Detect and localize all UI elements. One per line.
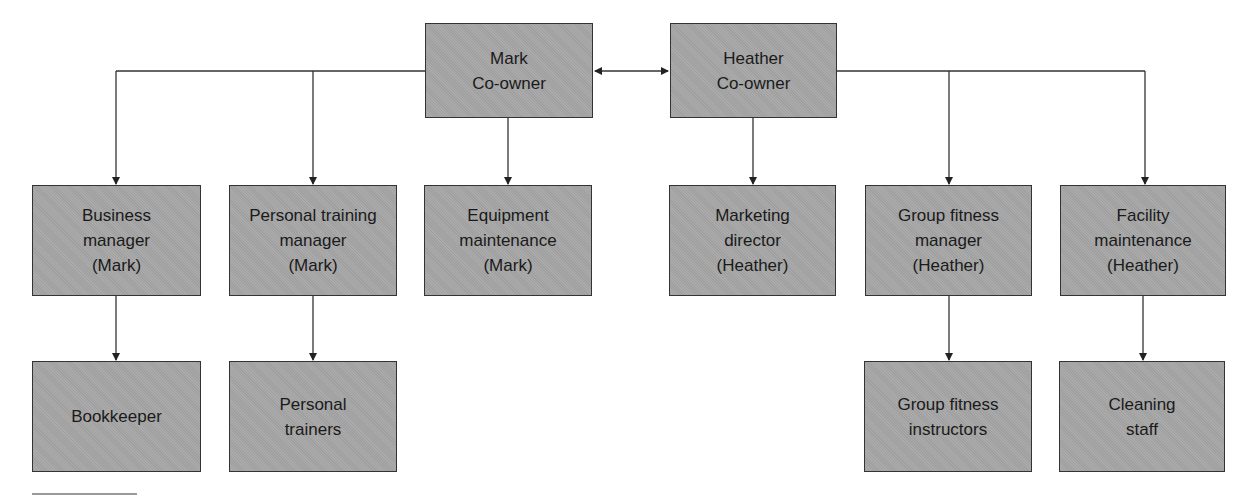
node-label: Cleaning staff	[1108, 392, 1175, 442]
node-label: Group fitness manager (Heather)	[898, 203, 999, 278]
node-personal-trainers: Personal trainers	[229, 361, 397, 472]
node-bookkeeper: Bookkeeper	[32, 361, 201, 472]
node-label: Personal training manager (Mark)	[249, 203, 377, 278]
node-label: Heather Co-owner	[717, 46, 791, 96]
node-label: Marketing director (Heather)	[715, 203, 790, 278]
node-label: Equipment maintenance (Mark)	[459, 203, 556, 278]
node-facility-maintenance: Facility maintenance (Heather)	[1060, 185, 1226, 296]
footer-rule	[32, 493, 137, 495]
node-label: Group fitness instructors	[897, 392, 998, 442]
node-equipment-maintenance: Equipment maintenance (Mark)	[424, 185, 592, 296]
node-label: Bookkeeper	[71, 404, 162, 429]
node-personal-training-manager: Personal training manager (Mark)	[229, 185, 397, 296]
node-label: Business manager (Mark)	[82, 203, 151, 278]
node-heather-co-owner: Heather Co-owner	[670, 23, 837, 118]
node-group-fitness-instructors: Group fitness instructors	[864, 361, 1032, 472]
node-label: Personal trainers	[279, 392, 346, 442]
node-label: Mark Co-owner	[472, 46, 546, 96]
node-mark-co-owner: Mark Co-owner	[425, 23, 593, 118]
node-group-fitness-manager: Group fitness manager (Heather)	[865, 185, 1032, 296]
node-business-manager: Business manager (Mark)	[32, 185, 201, 296]
node-cleaning-staff: Cleaning staff	[1059, 361, 1225, 472]
node-marketing-director: Marketing director (Heather)	[669, 185, 836, 296]
node-label: Facility maintenance (Heather)	[1094, 203, 1191, 278]
